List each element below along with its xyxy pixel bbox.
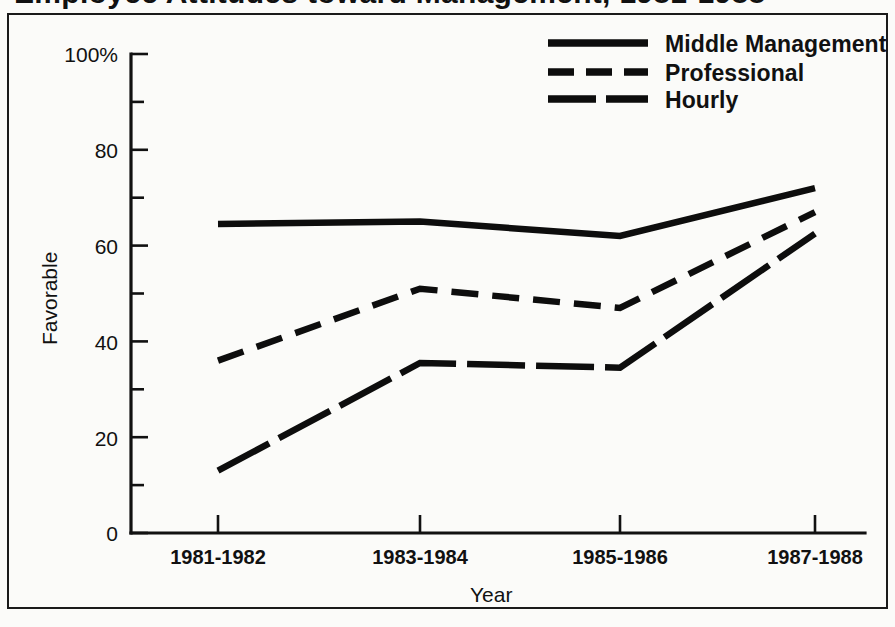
legend-label-middle-management: Middle Management [665,31,887,58]
y-tick-label-80: 80 [28,139,118,163]
y-tick-label-100: 100% [28,43,118,67]
y-tick-label-20: 20 [28,427,118,451]
series-line-professional [218,212,815,361]
x-tick-label-1983-1984: 1983-1984 [340,546,500,569]
x-axis-ticks [218,515,815,533]
y-axis-title: Favorable [38,252,62,345]
legend-label-hourly: Hourly [665,87,738,114]
x-axis-title: Year [470,583,512,607]
legend-label-professional: Professional [665,60,804,87]
x-tick-label-1987-1988: 1987-1988 [735,546,895,569]
legend-swatches [548,43,648,99]
series-line-middle-management [218,188,815,236]
chart-figure: Employee Attitudes toward Management, 19… [0,0,895,627]
y-axis-minor-ticks [131,102,144,485]
x-tick-label-1985-1986: 1985-1986 [540,546,700,569]
series-line-hourly [218,234,815,471]
x-tick-label-1981-1982: 1981-1982 [138,546,298,569]
y-tick-label-0: 0 [28,522,118,546]
line-chart-plot [0,0,895,627]
